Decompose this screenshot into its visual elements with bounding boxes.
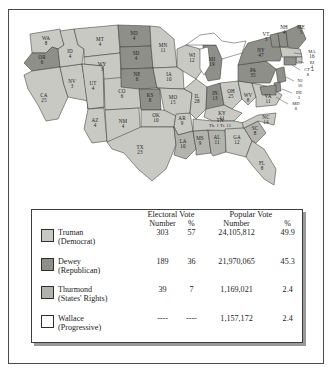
subheader-electoral-number: Number [142,219,183,228]
legend-table-box: Electoral Vote Popular Vote Number % Num… [31,209,303,343]
swatch-cell-dewey [32,257,58,286]
label-TX: TX23 [137,144,144,155]
map-container: .s{stroke:#3a3a3a;stroke-width:0.55px;st… [8,9,324,205]
popular-percent: 2.4 [273,285,302,314]
popular-number: 1,169,021 [200,285,274,314]
electoral-percent: 36 [183,257,200,286]
label-MA: MA16 [308,49,316,59]
col-swatch-subheader [32,219,58,228]
subheader-electoral-percent: % [183,219,200,228]
swatch-cell-truman [32,228,58,257]
leader-NJ [286,77,294,81]
united-states-map: .s{stroke:#3a3a3a;stroke-width:0.55px;st… [8,9,324,205]
state-MA [280,47,302,57]
popular-number: 1,157,172 [200,314,274,343]
electoral-percent: 57 [183,228,200,257]
candidate-party: (States' Rights) [58,294,142,303]
table-body: Truman (Democrat) 303 57 24,105,812 49.9… [32,228,302,342]
candidate-cell-dewey: Dewey (Republican) [58,257,142,286]
table-head: Electoral Vote Popular Vote Number % Num… [32,210,302,228]
label-AL: AL11 [214,134,221,145]
col-candidate-header [58,210,142,219]
label-CT: CT 4 [304,67,314,72]
table-row: Truman (Democrat) 303 57 24,105,812 49.9 [32,228,302,257]
election-map-figure: .s{stroke:#3a3a3a;stroke-width:0.55px;st… [0,0,332,372]
electoral-number: 189 [142,257,183,286]
swatch-cell-wallace [32,314,58,343]
col-swatch-header [32,210,58,219]
label-DE-votes: 3 [298,95,301,100]
table-sub-header-row: Number % Number % [32,219,302,228]
candidate-party: (Republican) [58,266,142,275]
electoral-percent: 7 [183,285,200,314]
legend-swatch-truman [41,229,54,242]
swatch-cell-thurmond [32,285,58,314]
label-IN: IN13 [212,90,218,101]
popular-percent: 45.3 [273,257,302,286]
header-popular-vote: Popular Vote [200,210,302,219]
table-row: Thurmond (States' Rights) 39 7 1,169,021… [32,285,302,314]
candidate-party: (Progressive) [58,323,142,332]
candidate-cell-wallace: Wallace (Progressive) [58,314,142,343]
subheader-popular-number: Number [200,219,274,228]
label-NJ-votes: 16 [298,83,303,88]
label-TN-split: Th. 1 Tr. 11 [209,123,231,128]
subheader-popular-percent: % [273,219,302,228]
results-table: Electoral Vote Popular Vote Number % Num… [32,210,302,342]
header-electoral-vote: Electoral Vote [142,210,200,219]
candidate-cell-thurmond: Thurmond (States' Rights) [58,285,142,314]
electoral-number: ---- [142,314,183,343]
label-PA: PA35 [250,67,256,78]
candidate-cell-truman: Truman (Democrat) [58,228,142,257]
label-IL: IL28 [194,93,200,104]
col-candidate-subheader [58,219,142,228]
candidate-party: (Democrat) [58,237,142,246]
legend-swatch-thurmond [41,286,54,299]
electoral-number: 39 [142,285,183,314]
candidate-name: Dewey [58,257,81,266]
label-MI: MI19 [209,56,216,67]
label-MD-votes: 8 [295,106,298,111]
candidate-name: Thurmond [58,285,92,294]
legend-swatch-dewey [41,258,54,271]
popular-percent: 49.9 [273,228,302,257]
label-WI: WI12 [189,52,196,63]
candidate-name: Wallace [58,314,84,323]
label-IA: IA10 [166,71,172,82]
state-NJ [276,67,286,83]
electoral-percent: ---- [183,314,200,343]
candidate-name: Truman [58,228,83,237]
table-row: Dewey (Republican) 189 36 21,970,065 45.… [32,257,302,286]
table-row: Wallace (Progressive) ---- ---- 1,157,17… [32,314,302,343]
popular-number: 21,970,065 [200,257,274,286]
label-CT-votes: 8 [307,72,310,77]
popular-percent: 2.4 [273,314,302,343]
state-CT [284,57,296,65]
leader-DE [282,89,292,93]
popular-number: 24,105,812 [200,228,274,257]
leader-CT [292,65,300,70]
table-group-header-row: Electoral Vote Popular Vote [32,210,302,219]
electoral-number: 303 [142,228,183,257]
label-LA: LA10 [180,138,187,149]
legend-swatch-wallace [41,315,54,328]
